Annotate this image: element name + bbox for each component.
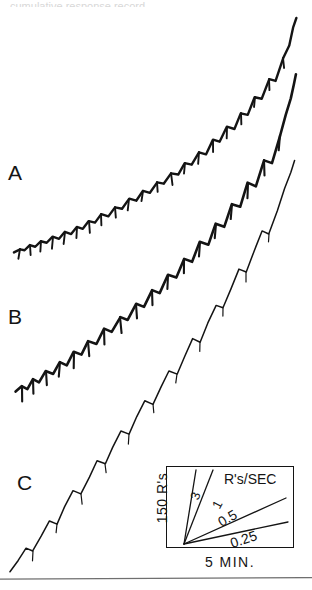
reinforcement-pip (76, 227, 77, 238)
legend-units-label: R's/SEC (224, 471, 276, 487)
reinforcement-pip (52, 237, 53, 249)
cumulative-record-figure: cumulative response record A B C 3 1 0.5… (0, 0, 312, 590)
legend-slope-line-3 (184, 470, 196, 544)
reinforcement-pip (40, 241, 41, 251)
reinforcement-pip (153, 404, 154, 413)
reinforcement-pip (283, 58, 284, 68)
bottom-rule-line (0, 577, 312, 580)
reinforcement-pip (198, 152, 199, 164)
reinforcement-pip (46, 371, 47, 385)
curve-label-c: C (17, 472, 33, 493)
reinforcement-pip (115, 207, 116, 218)
reinforcement-pip (59, 362, 60, 377)
reinforcement-pip (105, 464, 106, 473)
reinforcement-pip (136, 304, 137, 318)
reinforcement-pip (184, 163, 185, 174)
reinforcement-pip (157, 182, 158, 192)
curve-label-a: A (8, 162, 23, 183)
reinforcement-pip (167, 275, 168, 289)
reinforcement-pip (279, 135, 280, 150)
reinforcement-pip (215, 224, 216, 238)
curve-label-b: B (8, 306, 23, 327)
reinforcement-pip (81, 494, 82, 504)
reinforcement-pip (33, 551, 34, 561)
reinforcement-pip (247, 183, 248, 198)
record-trace-a (14, 18, 296, 252)
reinforcement-pip (88, 341, 89, 356)
reinforcement-pip (30, 245, 31, 255)
reinforcement-pip (199, 242, 200, 256)
reinforcement-pip (89, 221, 90, 233)
reinforcement-pip (128, 434, 129, 444)
reinforcement-pip (264, 160, 265, 176)
curve-A (14, 18, 296, 259)
rate-legend: 3 1 0.5 0.25 R's/SEC 150 R's 5 MIN. (166, 466, 294, 548)
reinforcement-pip (120, 317, 122, 333)
reinforcement-pip (254, 97, 255, 107)
record-trace-b (16, 74, 296, 391)
legend-x-axis-label: 5 MIN. (166, 554, 294, 570)
reinforcement-pip (128, 199, 129, 210)
legend-y-axis-label: 150 R's (154, 455, 170, 541)
reinforcement-pip (176, 374, 177, 383)
reinforcement-pip (269, 234, 270, 242)
reinforcement-pip (56, 524, 57, 533)
reinforcement-pip (231, 204, 232, 219)
